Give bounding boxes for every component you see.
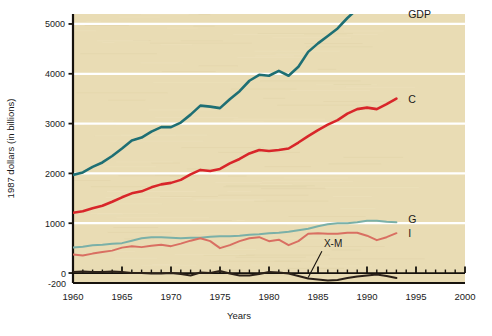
x-tick-label-1990: 1990 <box>356 291 377 302</box>
g-label: G <box>408 213 416 225</box>
x-tick-label-1995: 1995 <box>405 291 426 302</box>
gdp-label: GDP <box>408 8 431 20</box>
x-axis-title: Years <box>227 310 251 321</box>
y-tick-label-4000: 4000 <box>45 69 65 79</box>
y-tick-label-5000: 5000 <box>45 19 65 29</box>
y-tick-label--200: -200 <box>48 279 66 289</box>
x-tick-label-1985: 1985 <box>307 291 328 302</box>
x-tick-label-1970: 1970 <box>160 291 181 302</box>
y-axis-title: 1987 dollars (in billions) <box>5 99 16 199</box>
x-tick-label-1960: 1960 <box>62 291 83 302</box>
plot-background <box>73 14 465 283</box>
y-tick-labels: -200010002000300040005000 <box>45 19 66 289</box>
x-tick-label-2000: 2000 <box>454 291 475 302</box>
i-label: I <box>408 227 411 239</box>
y-tick-label-1000: 1000 <box>45 219 65 229</box>
plot-background-group <box>73 14 465 283</box>
c-label: C <box>408 93 416 105</box>
y-tick-label-0: 0 <box>61 269 66 279</box>
x-tick-labels: 196019651970197519801985199019952000 <box>62 291 475 302</box>
chart-figure: X-M 196019651970197519801985199019952000… <box>0 0 492 336</box>
x-m-callout: X-M <box>324 238 342 249</box>
chart-svg: X-M 196019651970197519801985199019952000… <box>0 0 492 336</box>
x-tick-label-1975: 1975 <box>209 291 230 302</box>
y-tick-label-3000: 3000 <box>45 119 65 129</box>
y-tick-label-2000: 2000 <box>45 169 65 179</box>
x-tick-label-1965: 1965 <box>111 291 132 302</box>
x-tick-label-1980: 1980 <box>258 291 279 302</box>
